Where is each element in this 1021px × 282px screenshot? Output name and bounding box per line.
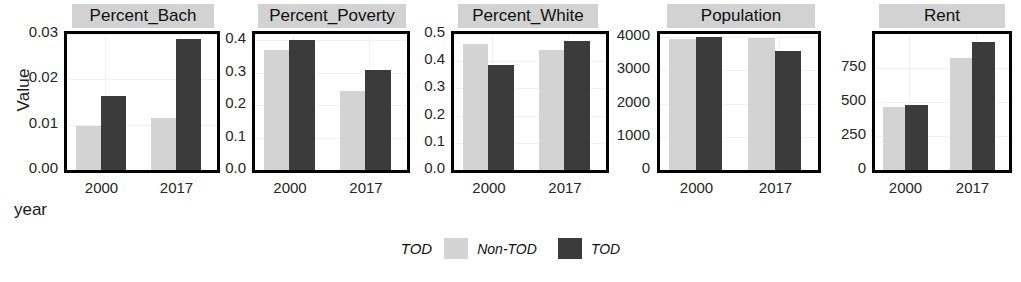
y-tick-label: 1000 <box>594 125 650 142</box>
plot-inner <box>875 34 1009 170</box>
y-tick-label: 0.0 <box>190 159 246 176</box>
bar-2017-tod <box>775 51 801 170</box>
y-tick-label: 0 <box>594 159 650 176</box>
x-axis-title: year <box>0 200 1021 220</box>
y-tick-label: 0.03 <box>2 23 58 40</box>
bar-2000-tod <box>289 40 314 170</box>
plot-area <box>657 31 821 173</box>
x-tick-label: 2017 <box>139 179 214 196</box>
y-tick-label: 0.4 <box>190 29 246 46</box>
plot-area <box>252 31 410 173</box>
x-tick-label: 2017 <box>736 179 815 196</box>
y-tick-label: 500 <box>810 91 866 108</box>
panel-title: Percent_White <box>458 4 598 28</box>
y-tick-label: 2000 <box>594 92 650 109</box>
bar-2000-non-tod <box>883 107 905 170</box>
y-tick-label: 0.2 <box>389 104 445 121</box>
plot-inner <box>255 34 407 170</box>
y-tick-label: 0.3 <box>190 61 246 78</box>
bar-2000-tod <box>905 105 927 170</box>
bar-2017-non-tod <box>340 91 365 170</box>
gridline-horizontal <box>454 34 606 35</box>
bar-2017-tod <box>365 70 390 170</box>
bar-2000-non-tod <box>76 126 101 170</box>
panel-title: Population <box>667 4 815 28</box>
legend-title: TOD <box>401 240 432 257</box>
y-tick-label: 0.4 <box>389 50 445 67</box>
bar-2000-non-tod <box>669 39 695 170</box>
panel-title: Percent_Bach <box>72 4 214 28</box>
panel-title: Rent <box>879 4 1005 28</box>
x-tick-label: 2000 <box>252 179 328 196</box>
x-axis-title-text: year <box>14 200 47 219</box>
legend-label-tod: TOD <box>591 241 620 257</box>
plot-area <box>451 31 609 173</box>
bar-2017-tod <box>972 42 994 170</box>
y-tick-label: 0.02 <box>2 68 58 85</box>
gridline-horizontal <box>255 40 407 41</box>
legend-swatch-non-tod <box>444 238 468 259</box>
x-tick-label: 2000 <box>872 179 939 196</box>
y-tick-label: 0.3 <box>389 77 445 94</box>
y-tick-label: 4000 <box>594 26 650 43</box>
y-tick-label: 0.00 <box>2 159 58 176</box>
facet-bar-chart-figure: Value year Percent_BachPercent_PovertyPe… <box>0 0 1021 282</box>
x-tick-label: 2000 <box>657 179 736 196</box>
plot-area <box>872 31 1012 173</box>
bar-2000-non-tod <box>463 44 488 170</box>
x-tick-label: 2000 <box>451 179 527 196</box>
legend-swatch-tod <box>558 238 582 259</box>
y-tick-label: 0.2 <box>190 94 246 111</box>
x-tick-label: 2017 <box>939 179 1006 196</box>
y-tick-label: 0.1 <box>190 126 246 143</box>
y-tick-label: 0.1 <box>389 131 445 148</box>
bar-2017-non-tod <box>151 118 176 170</box>
bar-2017-non-tod <box>748 38 774 170</box>
plot-inner <box>454 34 606 170</box>
y-tick-label: 0.5 <box>389 23 445 40</box>
bar-2000-tod <box>101 96 126 170</box>
y-tick-label: 3000 <box>594 59 650 76</box>
bar-2017-non-tod <box>950 58 972 170</box>
x-tick-label: 2017 <box>328 179 404 196</box>
y-tick-label: 250 <box>810 125 866 142</box>
y-tick-label: 0 <box>810 159 866 176</box>
bar-2017-tod <box>564 41 589 170</box>
bar-2000-tod <box>696 37 722 170</box>
bar-2000-non-tod <box>264 50 289 170</box>
y-tick-label: 0.01 <box>2 113 58 130</box>
x-tick-label: 2000 <box>64 179 139 196</box>
legend-label-non-tod: Non-TOD <box>477 241 537 257</box>
plot-inner <box>660 34 818 170</box>
x-tick-label: 2017 <box>527 179 603 196</box>
y-tick-label: 0.0 <box>389 159 445 176</box>
panel-title: Percent_Poverty <box>258 4 406 28</box>
chart-legend: TOD Non-TOD TOD <box>0 238 1021 259</box>
y-tick-label: 750 <box>810 57 866 74</box>
bar-2017-non-tod <box>539 50 564 170</box>
bar-2000-tod <box>488 65 513 170</box>
